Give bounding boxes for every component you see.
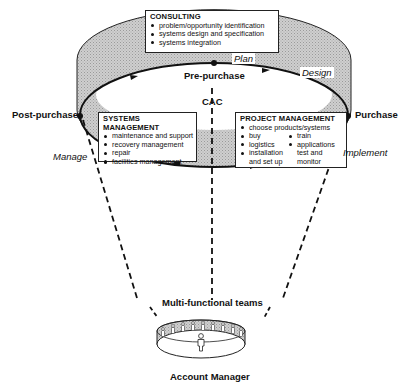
list-item: systems integration (150, 39, 274, 48)
phase-plan-label: Plan (232, 53, 255, 64)
systems-management-list: maintenance and support recovery managem… (103, 132, 192, 166)
systems-management-box: SYSTEMS MANAGEMENT maintenance and suppo… (98, 112, 197, 162)
project-management-left-list: buy logistics installation and set up (240, 132, 288, 166)
project-management-right-list: train applications test and monitor (288, 132, 335, 166)
list-item-continuation: and set up (240, 158, 288, 167)
post-purchase-label: Post-purchase (12, 109, 78, 120)
purchase-label: Purchase (355, 109, 398, 120)
multi-functional-teams-label: Multi-functional teams (162, 297, 263, 308)
list-item: facilities management (103, 158, 192, 167)
pre-purchase-dot (211, 60, 217, 66)
project-management-columns: buy logistics installation and set up tr… (240, 132, 342, 166)
phase-design-label: Design (300, 67, 334, 78)
cycle-diagram-graphics (0, 0, 405, 388)
consulting-list: problem/opportunity identification syste… (150, 22, 274, 48)
account-manager-cylinder (157, 320, 245, 358)
phase-manage-label: Manage (53, 151, 87, 162)
pre-purchase-label: Pre-purchase (184, 70, 245, 81)
systems-management-title: SYSTEMS MANAGEMENT (103, 115, 192, 132)
consulting-box: CONSULTING problem/opportunity identific… (145, 10, 279, 53)
project-management-box: PROJECT MANAGEMENT choose products/syste… (235, 112, 347, 168)
list-item-continuation: monitor (288, 158, 335, 167)
cac-label: CAC (202, 96, 223, 107)
phase-implement-label: Implement (343, 147, 387, 158)
account-manager-label: Account Manager (170, 371, 250, 382)
